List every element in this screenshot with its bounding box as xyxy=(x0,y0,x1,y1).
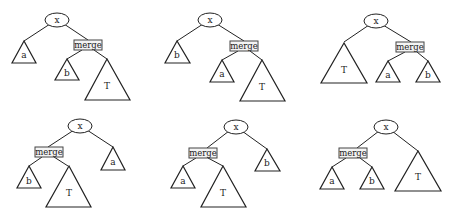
subtree-label: T xyxy=(415,172,421,182)
merge-label: merge xyxy=(189,148,217,158)
edge-merge-left xyxy=(67,50,82,59)
edge-root-merge xyxy=(217,24,244,41)
diagram-3: x T merge a b xyxy=(321,14,440,83)
subtree-label: T xyxy=(104,81,110,91)
subtree-label: b xyxy=(174,50,180,60)
subtree-label: a xyxy=(110,157,116,167)
subtree-label: b xyxy=(264,158,270,168)
subtree-label: T xyxy=(66,188,72,198)
subtree-T xyxy=(321,43,367,83)
edge-merge-right xyxy=(54,157,68,166)
edge-root-merge xyxy=(357,131,379,148)
subtree-T xyxy=(85,59,130,100)
merge-label: merge xyxy=(35,147,63,157)
edge-root-merge xyxy=(207,131,229,148)
edge-merge-left xyxy=(388,52,405,61)
edge-merge-right xyxy=(94,50,107,59)
merge-label: merge xyxy=(230,41,258,51)
merge-label: merge xyxy=(339,148,367,158)
subtree-label: a xyxy=(385,70,391,80)
diagram-6: x merge a b T xyxy=(320,120,441,191)
subtree-label: a xyxy=(329,176,335,186)
subtree-label: a xyxy=(180,176,186,186)
subtree-label: T xyxy=(259,82,265,92)
edge-root-right xyxy=(242,131,267,149)
subtree-label: b xyxy=(26,176,32,186)
edge-merge-left xyxy=(222,51,238,60)
edge-root-left xyxy=(24,24,50,41)
root-label: x xyxy=(383,122,388,132)
edge-root-right xyxy=(87,130,113,147)
edge-root-merge xyxy=(48,130,74,147)
edge-merge-right xyxy=(360,158,372,167)
subtree-label: a xyxy=(219,69,225,79)
merge-label: merge xyxy=(396,42,424,52)
edge-merge-right xyxy=(208,158,223,166)
subtree-label: T xyxy=(341,65,347,75)
root-label: x xyxy=(77,121,82,131)
edge-root-right xyxy=(392,131,418,151)
edge-root-left xyxy=(177,24,203,41)
edge-merge-left xyxy=(332,158,346,167)
subtree-T xyxy=(46,166,91,207)
edge-merge-right xyxy=(417,52,428,61)
merge-label: merge xyxy=(74,40,102,50)
edge-root-left xyxy=(344,25,369,42)
edge-merge-right xyxy=(250,51,262,60)
root-label: x xyxy=(373,16,378,26)
subtree-label: b xyxy=(425,70,431,80)
subtree-T xyxy=(240,60,285,101)
subtree-label: T xyxy=(220,188,226,198)
diagram-4: x merge b T a xyxy=(17,119,125,207)
subtree-label: b xyxy=(369,176,375,186)
subtree-T xyxy=(395,151,441,191)
tree-merge-diagrams: x a merge b T x b merge a T x T xyxy=(0,0,455,218)
root-label: x xyxy=(233,122,238,132)
root-label: x xyxy=(54,15,59,25)
edge-root-merge xyxy=(64,24,88,40)
diagram-5: x merge a T b xyxy=(171,120,280,207)
diagram-1: x a merge b T xyxy=(12,13,130,100)
root-label: x xyxy=(207,15,212,25)
edge-merge-left xyxy=(183,158,196,166)
subtree-label: b xyxy=(64,68,70,78)
edge-root-merge xyxy=(383,25,411,42)
diagram-2: x b merge a T xyxy=(165,13,285,101)
edge-merge-left xyxy=(29,157,42,166)
subtree-T xyxy=(201,166,246,207)
subtree-label: a xyxy=(21,50,27,60)
